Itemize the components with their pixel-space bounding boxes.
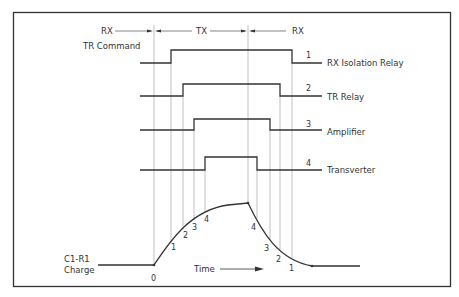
signal-4-label: Transverter <box>326 165 376 175</box>
signal-1-label: RX Isolation Relay <box>327 58 403 68</box>
time-axis: Time <box>193 264 264 274</box>
timing-diagram: RX TX RX TR Command 1 RX Isolation Relay… <box>0 0 459 297</box>
signal-3-number: 3 <box>306 120 311 129</box>
phase-rx-left-label: RX <box>101 26 113 36</box>
signal-transverter: 4 Transverter <box>140 157 376 175</box>
curve-rise-2: 2 <box>183 231 188 240</box>
curve-fall-2: 2 <box>276 255 281 264</box>
time-arrow-icon <box>255 267 264 272</box>
signal-tr-relay: 2 TR Relay <box>140 84 364 102</box>
signal-rx-isolation-relay: 1 RX Isolation Relay <box>140 50 403 68</box>
guide-lines <box>154 25 292 265</box>
phase-tx-label: TX <box>195 26 207 36</box>
time-label: Time <box>193 264 215 274</box>
signal-2-number: 2 <box>306 84 311 93</box>
signal-4-number: 4 <box>306 159 311 168</box>
diagram-border <box>14 13 451 287</box>
curve-fall-4: 4 <box>251 223 256 232</box>
phase-rx-right-label: RX <box>292 26 304 36</box>
signal-1-number: 1 <box>306 51 311 60</box>
curve-rise-1: 1 <box>171 243 176 252</box>
phase-markers: RX TX RX <box>101 26 304 36</box>
curve-fall-3: 3 <box>264 244 269 253</box>
curve-rise-4: 4 <box>204 215 209 224</box>
curve-rise-3: 3 <box>192 223 197 232</box>
signal-2-label: TR Relay <box>326 92 364 102</box>
signal-3-label: Amplifier <box>327 127 366 137</box>
charge-label-line1: C1-R1 <box>64 254 90 264</box>
curve-fall-1: 1 <box>289 264 294 273</box>
curve-origin-label: 0 <box>151 274 156 283</box>
signal-amplifier: 3 Amplifier <box>140 119 366 137</box>
charge-label-line2: Charge <box>64 265 95 275</box>
tr-command-label: TR Command <box>82 41 141 51</box>
